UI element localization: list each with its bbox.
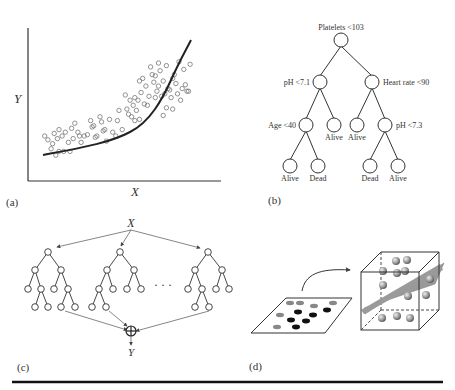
- ellipsis: · · ·: [154, 278, 172, 292]
- output-arrow: [136, 311, 209, 331]
- leaf-label: Alive: [389, 174, 407, 183]
- scatter-point: [164, 106, 168, 110]
- tree-leaf-dead: [363, 159, 377, 173]
- tree-node-root: [334, 33, 348, 47]
- leaf-label: Dead: [362, 174, 379, 183]
- forest-tree-node: [104, 267, 111, 274]
- scatter-point: [79, 140, 83, 144]
- tree-leaf-alive: [327, 118, 341, 132]
- scatter-point: [71, 136, 75, 140]
- node-label-age: Age <40: [268, 121, 296, 130]
- input-arrow: [121, 230, 131, 246]
- scatter-point: [52, 131, 56, 135]
- scatter-point: [128, 98, 132, 102]
- forest-tree-node: [45, 304, 52, 311]
- scatter-point: [99, 120, 103, 124]
- scatter-point: [129, 115, 133, 119]
- x-axis-label: X: [130, 184, 140, 199]
- leaf-label: Dead: [310, 174, 327, 183]
- tree-node-heartrate: [365, 75, 379, 89]
- scatter-point: [164, 63, 168, 67]
- scatter-point: [156, 61, 160, 65]
- panel-d-label: (d): [249, 360, 262, 373]
- panel-a-scatter: Y X (a): [6, 28, 221, 209]
- scatter-point: [111, 130, 115, 134]
- scatter-point: [125, 107, 129, 111]
- node-label-left: pH <7.1: [284, 78, 310, 87]
- output-arrow: [109, 311, 127, 326]
- scatter-point: [169, 95, 173, 99]
- scatter-points: [43, 60, 193, 158]
- scatter-point: [123, 93, 127, 97]
- panel-b-decision-tree: [283, 33, 405, 173]
- tree-leaf-alive: [391, 159, 405, 173]
- scatter-point: [60, 134, 64, 138]
- scatter-point: [136, 98, 140, 102]
- scatter-point: [88, 118, 92, 122]
- scatter-point: [156, 84, 160, 88]
- scatter-point: [133, 118, 137, 122]
- node-label-right: Heart rate <90: [383, 78, 429, 87]
- scatter-point: [131, 103, 135, 107]
- scatter-point: [134, 108, 138, 112]
- scatter-point: [139, 90, 143, 94]
- panel-c-random-forest: X · · · Y (c): [17, 216, 232, 374]
- scatter-point: [49, 147, 53, 151]
- forest-tree-node: [58, 267, 65, 274]
- scatter-point: [161, 79, 165, 83]
- forest-tree-node: [32, 267, 39, 274]
- scatter-point: [46, 138, 50, 142]
- tree-leaf-alive: [283, 159, 297, 173]
- scatter-point: [153, 95, 157, 99]
- node-label-ph73: pH <7.3: [396, 121, 422, 130]
- y-axis-label: Y: [14, 91, 23, 106]
- scatter-point: [158, 69, 162, 73]
- scatter-point: [161, 113, 165, 117]
- forest-tree-node: [96, 286, 103, 293]
- scatter-point: [178, 98, 182, 102]
- node-label-root: Platelets <103: [318, 23, 364, 32]
- scatter-point: [43, 134, 47, 138]
- forest-tree-node: [131, 267, 138, 274]
- scatter-point: [188, 62, 192, 66]
- scatter-point: [117, 108, 121, 112]
- forest-tree-node: [206, 304, 213, 311]
- forest-tree-node: [185, 286, 192, 293]
- scatter-point: [98, 115, 102, 119]
- tree-leaf-dead: [311, 159, 325, 173]
- scatter-point: [120, 127, 124, 131]
- forest-trees: [25, 249, 233, 311]
- forest-tree-node: [32, 304, 39, 311]
- forest-tree-node: [89, 304, 96, 311]
- forest-tree-node: [51, 286, 58, 293]
- panel-a-label: (a): [6, 196, 19, 209]
- forest-tree-node: [205, 249, 212, 256]
- mapping-arrow: [302, 270, 350, 291]
- forest-tree-node: [138, 286, 145, 293]
- forest-tree-node: [124, 286, 131, 293]
- scatter-point: [50, 142, 54, 146]
- scatter-point: [182, 67, 186, 71]
- forest-tree-node: [219, 267, 226, 274]
- scatter-point: [183, 83, 187, 87]
- forest-input-label: X: [126, 216, 135, 230]
- output-arrow: [65, 311, 127, 330]
- scatter-point: [77, 134, 81, 138]
- leaf-label: Alive: [325, 133, 343, 142]
- forest-tree-node: [226, 286, 233, 293]
- tree-node-ph71: [313, 75, 327, 89]
- scatter-point: [180, 86, 184, 90]
- figure-canvas: Y X (a) Platelets <103 pH <7.1 Heart rat…: [0, 0, 455, 390]
- scatter-point: [141, 76, 145, 80]
- scatter-point: [155, 89, 159, 93]
- forest-output-label: Y: [128, 346, 136, 358]
- scatter-point: [152, 80, 156, 84]
- scatter-point: [107, 117, 111, 121]
- forest-tree-node: [65, 286, 72, 293]
- forest-tree-node: [45, 249, 52, 256]
- scatter-point: [55, 136, 59, 140]
- forest-tree-node: [192, 267, 199, 274]
- forest-tree-node: [58, 304, 65, 311]
- scatter-point: [171, 107, 175, 111]
- tree-leaf-alive: [350, 118, 364, 132]
